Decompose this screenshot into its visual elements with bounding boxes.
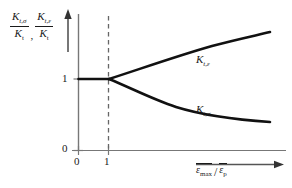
y-axis-label-separator: , [31,30,34,42]
y-axis-label-term2-denominator: Kt [38,27,51,42]
y-axis-label-term1: Kt,σ Kt [10,11,29,42]
y-axis-label-term1-denominator: Kt [13,27,26,42]
x-num-subscript: max [200,170,212,178]
curve-label-sig-subscript: t,σ [203,110,210,118]
curve-label-kt-epsilon: Kt,ε [196,54,210,68]
y-term2-num-symbol: K [37,10,44,22]
x-axis-label-numerator: εmax [196,163,212,178]
x-den-subscript: p [223,170,227,178]
x-tick-label-1: 1 [104,156,110,167]
y-tick-label-1: 1 [62,73,68,84]
y-axis-label-term2-numerator: Kt,ε [35,11,53,26]
plot-figure: Kt,σ Kt , Kt,ε Kt 1 0 0 1 Kt,ε Kt,σ εmax… [0,0,292,188]
y-tick-label-0: 0 [62,143,68,154]
curve-kt-epsilon [109,32,270,79]
x-axis-label-slash: / [213,166,218,178]
y-axis-label-term2: Kt,ε Kt [35,11,53,42]
x-axis-label-denominator: εp [219,163,226,178]
x-den-value: εp [219,165,226,178]
curve-label-eps-subscript: t,ε [203,60,209,68]
y-term2-den-subscript: t [47,34,49,42]
y-axis-label: Kt,σ Kt , Kt,ε Kt [10,11,53,42]
y-term1-den-subscript: t [22,34,24,42]
x-tick-label-0: 0 [74,156,80,167]
x-axis-label: εmax / εp [196,163,227,178]
y-axis-label-term1-numerator: Kt,σ [10,11,29,26]
x-num-value: εmax [196,165,212,178]
y-term2-num-subscript: t,ε [45,17,51,25]
y-label-arrow-icon [64,9,71,52]
curve-kt-sigma [109,79,270,122]
y-term2-den-symbol: K [40,27,47,39]
y-term1-num-subscript: t,σ [19,17,26,25]
y-term1-den-symbol: K [15,27,22,39]
curve-label-kt-sigma: Kt,σ [196,104,211,118]
